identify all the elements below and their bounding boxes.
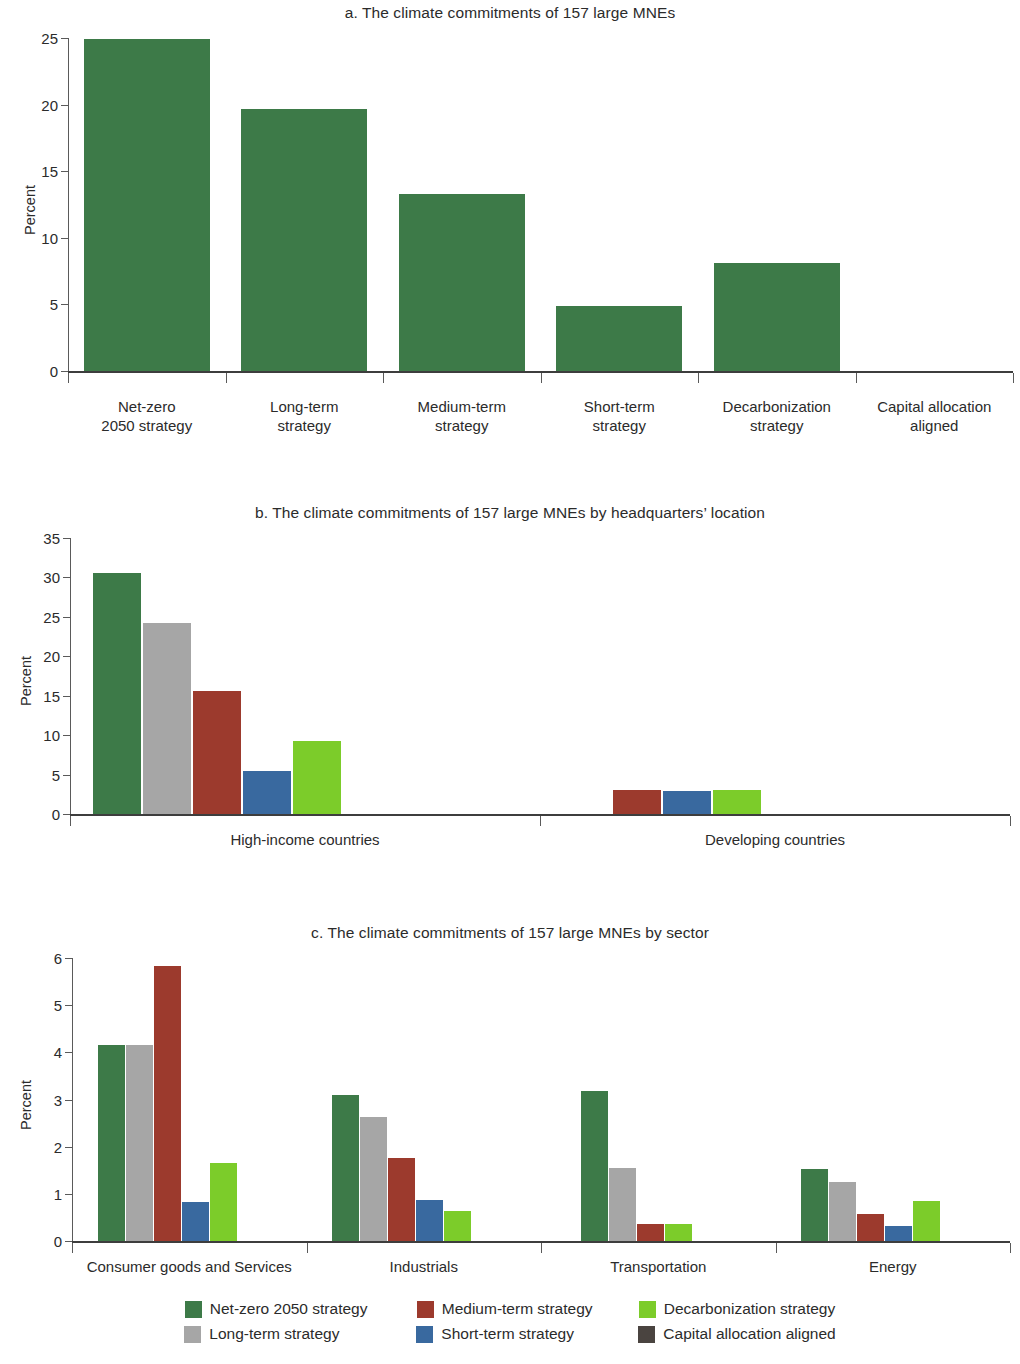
legend-item[interactable]: Decarbonization strategy — [639, 1300, 835, 1318]
x-category-label: Developing countries — [540, 830, 1010, 849]
x-category-label: Transportation — [541, 1257, 776, 1276]
capital-allocation-swatch — [638, 1326, 655, 1343]
bar — [360, 1117, 387, 1241]
panel-c-ytick-mark — [65, 1005, 72, 1006]
panel-a-ytick-mark — [61, 304, 68, 305]
panel-c-y-axis — [72, 958, 73, 1241]
panel-c-ytick-label: 5 — [28, 998, 62, 1013]
x-category-label: Consumer goods and Services — [72, 1257, 307, 1276]
panel-a-xtick-mark — [1013, 373, 1014, 383]
bar — [913, 1201, 940, 1241]
panel-b-ytick-label: 0 — [26, 807, 60, 822]
panel-b-ytick-mark — [63, 617, 70, 618]
x-category-label: Short-termstrategy — [541, 397, 699, 435]
legend-label: Capital allocation aligned — [663, 1325, 835, 1343]
panel-a-ytick-label: 25 — [24, 31, 58, 46]
bar — [154, 966, 181, 1241]
panel-b-ytick-mark — [63, 656, 70, 657]
legend-item[interactable]: Capital allocation aligned — [638, 1325, 835, 1343]
bar — [613, 790, 661, 814]
panel-c-xtick-mark — [541, 1243, 542, 1253]
bar — [182, 1202, 209, 1241]
panel-b-ytick-label: 30 — [26, 570, 60, 585]
panel-b-ytick-mark — [63, 577, 70, 578]
medium-term-swatch — [417, 1301, 434, 1318]
panel-a-ytick-label: 10 — [24, 230, 58, 245]
legend-label: Long-term strategy — [209, 1325, 339, 1343]
panel-b-xtick-mark — [540, 816, 541, 826]
panel-a-ytick-mark — [61, 371, 68, 372]
panel-a-xtick-mark — [856, 373, 857, 383]
bar — [885, 1226, 912, 1241]
long-term-swatch — [184, 1326, 201, 1343]
bar — [713, 790, 761, 814]
panel-c-ytick-mark — [65, 1147, 72, 1148]
bar — [444, 1211, 471, 1241]
bar — [93, 573, 141, 814]
bar — [609, 1168, 636, 1241]
panel-b-xtick-mark — [1010, 816, 1011, 826]
legend-item[interactable]: Long-term strategy — [184, 1325, 416, 1343]
panel-a-ytick-mark — [61, 38, 68, 39]
bar — [84, 39, 210, 371]
bar — [663, 791, 711, 814]
panel-c-xtick-mark — [72, 1243, 73, 1253]
panel-b: b. The climate commitments of 157 large … — [0, 504, 1020, 894]
panel-a-ytick-label: 0 — [24, 364, 58, 379]
bar — [665, 1224, 692, 1241]
panel-a-plot: Percent0510152025Net-zero2050 strategyLo… — [0, 30, 1020, 460]
panel-a-ytick-label: 5 — [24, 297, 58, 312]
panel-b-ytick-mark — [63, 775, 70, 776]
legend-item[interactable]: Net-zero 2050 strategy — [185, 1300, 417, 1318]
bar — [416, 1200, 443, 1241]
legend-item[interactable]: Medium-term strategy — [417, 1300, 639, 1318]
bar — [193, 691, 241, 814]
panel-b-ytick-mark — [63, 696, 70, 697]
panel-c-ytick-label: 2 — [28, 1139, 62, 1154]
panel-a-xtick-mark — [226, 373, 227, 383]
short-term-swatch — [416, 1326, 433, 1343]
panel-a-ytick-label: 15 — [24, 164, 58, 179]
panel-b-title: b. The climate commitments of 157 large … — [0, 504, 1020, 522]
panel-c-ytick-label: 0 — [28, 1234, 62, 1249]
panel-a-y-axis — [68, 38, 69, 371]
decarbonization-swatch — [639, 1301, 656, 1318]
panel-b-ytick-label: 35 — [26, 531, 60, 546]
panel-b-plot: Percent05101520253035High-income countri… — [0, 530, 1020, 890]
bar — [801, 1169, 828, 1241]
panel-a-ytick-mark — [61, 171, 68, 172]
panel-b-ytick-label: 25 — [26, 609, 60, 624]
bar — [210, 1163, 237, 1241]
bar — [126, 1045, 153, 1241]
bar — [829, 1182, 856, 1241]
net-zero-swatch — [185, 1301, 202, 1318]
panel-a: a. The climate commitments of 157 large … — [0, 4, 1020, 464]
panel-b-ytick-mark — [63, 538, 70, 539]
bar — [243, 771, 291, 814]
bar — [332, 1095, 359, 1241]
panel-a-xtick-mark — [68, 373, 69, 383]
x-category-label: Decarbonizationstrategy — [698, 397, 856, 435]
panel-b-ytick-label: 20 — [26, 649, 60, 664]
bar — [388, 1158, 415, 1241]
x-category-label: Medium-termstrategy — [383, 397, 541, 435]
bar — [714, 263, 840, 371]
panel-a-xtick-mark — [383, 373, 384, 383]
panel-c-ytick-label: 4 — [28, 1045, 62, 1060]
panel-b-ytick-mark — [63, 814, 70, 815]
figure-root: a. The climate commitments of 157 large … — [0, 0, 1020, 1364]
legend-item[interactable]: Short-term strategy — [416, 1325, 638, 1343]
panel-c-ytick-label: 6 — [28, 951, 62, 966]
panel-c: c. The climate commitments of 157 large … — [0, 924, 1020, 1284]
panel-c-ytick-mark — [65, 1194, 72, 1195]
legend-label: Medium-term strategy — [442, 1300, 593, 1318]
x-category-label: Net-zero2050 strategy — [68, 397, 226, 435]
legend-row: Net-zero 2050 strategyMedium-term strate… — [0, 1300, 1020, 1318]
panel-c-ytick-mark — [65, 1100, 72, 1101]
chart-legend: Net-zero 2050 strategyMedium-term strate… — [0, 1300, 1020, 1343]
legend-label: Net-zero 2050 strategy — [210, 1300, 368, 1318]
x-category-label: Long-termstrategy — [226, 397, 384, 435]
panel-c-ytick-label: 1 — [28, 1186, 62, 1201]
panel-b-ytick-mark — [63, 735, 70, 736]
panel-b-ytick-label: 15 — [26, 688, 60, 703]
